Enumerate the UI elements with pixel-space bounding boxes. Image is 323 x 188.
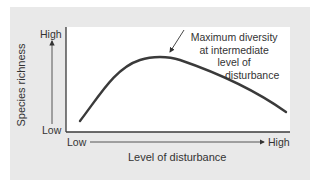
annotation-line-3: level of [189, 56, 279, 69]
x-high-label: High [268, 137, 290, 148]
annotation-line-2: at intermediate [189, 44, 279, 57]
annotation-text: Maximum diversity at intermediate level … [189, 31, 279, 81]
annotation-line-4: disturbance [189, 69, 279, 82]
annotation-line-1: Maximum diversity [189, 31, 279, 44]
annotation-arrow [170, 30, 184, 52]
x-low-label: Low [67, 137, 86, 148]
y-low-label: Low [42, 125, 61, 136]
y-axis-title: Species richness [15, 43, 27, 126]
y-high-label: High [40, 29, 62, 40]
x-axis-title: Level of disturbance [128, 152, 226, 163]
